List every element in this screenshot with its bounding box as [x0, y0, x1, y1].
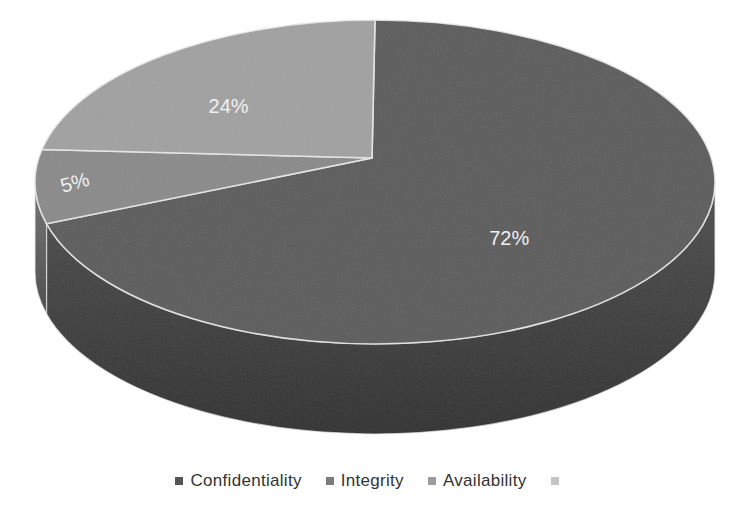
legend-item-availability: Availability — [428, 471, 527, 491]
scan-noise-overlay — [0, 0, 734, 455]
pie-chart-svg: 72%5%24% — [0, 0, 734, 455]
legend-item-confidentiality: Confidentiality — [175, 471, 301, 491]
pie-chart-figure: 72%5%24% ConfidentialityIntegrityAvailab… — [0, 0, 734, 529]
legend-label: Confidentiality — [190, 471, 301, 491]
legend-label: Integrity — [341, 471, 404, 491]
legend-swatch — [326, 477, 334, 485]
legend-swatch — [428, 477, 436, 485]
legend-swatch — [551, 477, 559, 485]
legend-swatch — [175, 477, 183, 485]
chart-legend: ConfidentialityIntegrityAvailability — [0, 471, 734, 491]
legend-label: Availability — [443, 471, 527, 491]
legend-item-blank — [551, 477, 559, 485]
legend-item-integrity: Integrity — [326, 471, 404, 491]
